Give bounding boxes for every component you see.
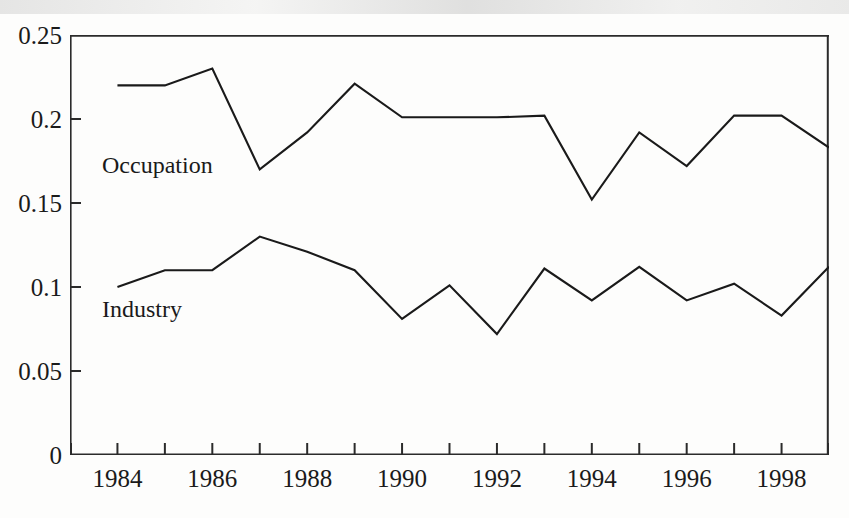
x-tick-label: 1992 [472, 466, 522, 491]
series-label-industry: Industry [102, 297, 182, 321]
line-chart-svg [70, 35, 829, 455]
x-tick-label: 1998 [757, 466, 807, 491]
y-axis-tick-labels: 00.050.10.150.20.25 [0, 35, 70, 455]
x-tick-label: 1988 [282, 466, 332, 491]
series-line-occupation [117, 69, 829, 200]
x-tick-label: 1986 [187, 466, 237, 491]
series-line-industry [117, 237, 829, 334]
plot-area: Occupation Industry [70, 35, 829, 455]
y-tick-label: 0.25 [18, 23, 62, 48]
y-tick-label: 0.1 [31, 275, 62, 300]
y-tick-label: 0.2 [31, 107, 62, 132]
x-tick-label: 1984 [92, 466, 142, 491]
chart-figure: 00.050.10.150.20.25 19841986198819901992… [0, 0, 849, 518]
series-label-occupation: Occupation [102, 153, 213, 177]
y-axis-ticks [71, 35, 82, 455]
scan-artifact-band [0, 0, 849, 14]
x-tick-label: 1994 [567, 466, 617, 491]
y-tick-label: 0.15 [18, 191, 62, 216]
x-axis-ticks [71, 443, 828, 455]
axes [70, 35, 829, 455]
x-tick-label: 1990 [377, 466, 427, 491]
y-tick-label: 0.05 [18, 359, 62, 384]
x-tick-label: 1996 [662, 466, 712, 491]
y-tick-label: 0 [50, 443, 63, 468]
